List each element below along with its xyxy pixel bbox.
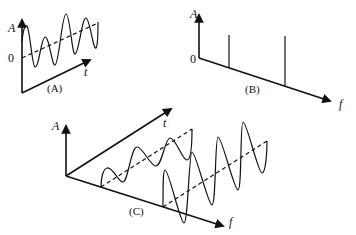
panel-c: A t f (C) [51, 109, 267, 229]
panel-b-origin-label: 0 [190, 52, 196, 66]
panel-c-t-label: t [163, 116, 167, 130]
panel-c-y-label: A [51, 119, 60, 133]
panel-b-y-label: A [189, 7, 198, 21]
panel-b-caption: (B) [245, 83, 260, 96]
panel-b-x-label: f [339, 97, 344, 111]
panel-a-signal-wave [22, 14, 98, 67]
panel-c-f-label: f [229, 215, 234, 229]
panel-a-caption: (A) [47, 82, 63, 95]
panel-c-low-freq-baseline [101, 129, 192, 187]
panel-b-frequency-axis [199, 58, 330, 101]
panel-a-x-label: t [84, 65, 88, 79]
panel-c-caption: (C) [129, 205, 144, 218]
panel-a-origin-label: 0 [8, 51, 14, 65]
fourier-diagram: A 0 t (A) A 0 f (B) A t f (C) [0, 0, 356, 235]
panel-b: A 0 f (B) [189, 7, 344, 111]
panel-a-y-label: A [7, 21, 16, 35]
panel-a: A 0 t (A) [7, 14, 98, 95]
